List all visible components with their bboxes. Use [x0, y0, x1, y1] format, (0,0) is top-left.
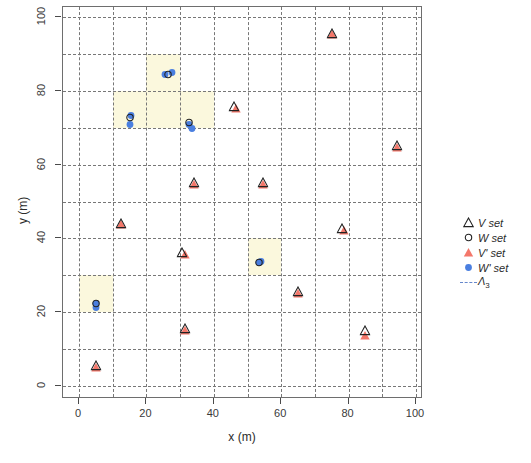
triangle-open-icon: [458, 217, 478, 228]
data-point-marker: [116, 215, 127, 233]
y-axis-tick: [55, 90, 61, 91]
y-axis-tick-label: 0: [35, 374, 47, 396]
x-axis-tick-label: 0: [75, 407, 81, 419]
x-axis-tick: [415, 398, 416, 404]
data-point-marker: [91, 294, 100, 312]
triangle-filled-icon: [458, 247, 478, 258]
grid-line-horizontal: [63, 91, 421, 92]
y-axis-tick-label: 80: [35, 79, 47, 101]
x-axis-tick: [145, 398, 146, 404]
data-point-marker: [90, 357, 101, 375]
data-point-marker: [229, 98, 240, 116]
grid-line-horizontal: [63, 312, 421, 313]
x-axis-tick-label: 20: [139, 407, 151, 419]
legend-label: V' set: [478, 247, 505, 259]
data-point-marker: [326, 25, 337, 43]
grid-line-horizontal: [63, 238, 421, 239]
grid-line-horizontal: [63, 17, 421, 18]
data-point-marker: [255, 253, 264, 271]
y-axis-tick: [55, 16, 61, 17]
plot-area: [63, 7, 421, 397]
y-axis-tick: [55, 237, 61, 238]
y-axis-title: y (m): [16, 197, 30, 224]
data-point-marker: [257, 174, 268, 192]
legend: V setW setV' setW' setΛ3: [458, 215, 531, 290]
data-point-marker: [336, 220, 347, 238]
grid-line-horizontal: [63, 275, 421, 276]
legend-item: V set: [458, 215, 531, 230]
data-point-marker: [188, 174, 199, 192]
data-point-marker: [176, 244, 187, 262]
legend-label: Λ3: [478, 275, 490, 290]
circle-open-icon: [458, 233, 478, 242]
y-axis-tick-label: 60: [35, 153, 47, 175]
data-point-marker: [125, 108, 134, 126]
grid-line-horizontal: [63, 165, 421, 166]
data-point-marker: [164, 65, 173, 83]
legend-item: W' set: [458, 260, 531, 275]
x-axis-tick-label: 60: [274, 407, 286, 419]
grid-line-horizontal: [63, 54, 421, 55]
x-axis-title: x (m): [62, 430, 422, 444]
y-axis-tick: [55, 164, 61, 165]
grid-line-vertical: [416, 7, 417, 397]
x-axis-tick: [213, 398, 214, 404]
data-point-marker: [392, 137, 403, 155]
data-point-marker: [184, 113, 193, 131]
x-axis-tick-label: 40: [207, 407, 219, 419]
grid-line-horizontal: [63, 349, 421, 350]
y-axis-tick: [55, 311, 61, 312]
y-axis-tick-label: 40: [35, 226, 47, 248]
x-axis-tick: [78, 398, 79, 404]
y-axis-tick-label: 20: [35, 300, 47, 322]
data-point-marker: [293, 283, 304, 301]
y-axis-tick-label: 100: [35, 5, 47, 27]
grid-line-horizontal: [63, 386, 421, 387]
grid-line-horizontal: [63, 202, 421, 203]
x-axis-tick-label: 100: [406, 407, 424, 419]
x-axis-tick-label: 80: [341, 407, 353, 419]
data-point-marker: [180, 320, 191, 338]
scatter-plot-figure: 020406080100020406080100 x (m) y (m) V s…: [0, 0, 531, 463]
legend-item: W set: [458, 230, 531, 245]
circle-filled-icon: [458, 263, 478, 272]
grid-line-horizontal: [63, 128, 421, 129]
grid-line-vertical: [79, 7, 80, 397]
data-point-marker: [360, 322, 371, 340]
legend-item: Λ3: [458, 275, 531, 290]
plot-frame: [62, 6, 422, 398]
x-axis-tick: [348, 398, 349, 404]
legend-label-subscript: 3: [485, 281, 489, 290]
legend-label: W' set: [478, 262, 508, 274]
legend-label: V set: [478, 217, 503, 229]
dashed-line-icon: [458, 282, 478, 283]
x-axis-tick: [280, 398, 281, 404]
legend-item: V' set: [458, 245, 531, 260]
y-axis-tick: [55, 385, 61, 386]
legend-label: W set: [478, 232, 506, 244]
